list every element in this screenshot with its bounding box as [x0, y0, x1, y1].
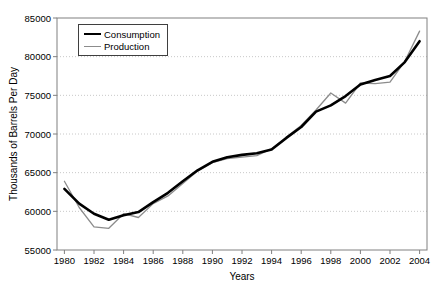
legend-item-production: Production	[84, 40, 160, 52]
y-tick-label: 80000	[25, 51, 51, 62]
legend-label-consumption: Consumption	[104, 29, 160, 40]
y-tick-label: 75000	[25, 90, 51, 101]
consumption-line-swatch-icon	[84, 33, 101, 35]
x-tick-label: 1982	[83, 255, 104, 266]
x-tick-label: 2004	[409, 255, 430, 266]
y-tick-label: 70000	[25, 129, 51, 140]
y-tick-label: 55000	[25, 245, 51, 256]
x-tick-label: 1994	[261, 255, 282, 266]
x-tick-label: 1998	[320, 255, 341, 266]
production-line-swatch-icon	[84, 46, 101, 47]
x-axis-title: Years	[229, 271, 254, 282]
y-tick-label: 60000	[25, 206, 51, 217]
x-tick-label: 2000	[350, 255, 371, 266]
consumption-line	[64, 41, 419, 220]
x-tick-label: 1986	[143, 255, 164, 266]
y-tick-label: 65000	[25, 167, 51, 178]
legend-label-production: Production	[104, 41, 149, 52]
x-tick-label: 1996	[291, 255, 312, 266]
x-tick-label: 1980	[54, 255, 75, 266]
y-tick-label: 85000	[25, 13, 51, 24]
x-tick-label: 1988	[172, 255, 193, 266]
legend: Consumption Production	[78, 24, 168, 56]
line-chart-canvas: 5500060000650007000075000800008500019801…	[0, 0, 439, 296]
x-tick-label: 1992	[231, 255, 252, 266]
x-tick-label: 1990	[202, 255, 223, 266]
x-tick-label: 1984	[113, 255, 134, 266]
production-line	[64, 31, 419, 228]
legend-item-consumption: Consumption	[84, 28, 160, 40]
x-tick-label: 2002	[379, 255, 400, 266]
y-axis-title: Thousands of Barrels Per Day	[8, 67, 19, 201]
oil-consumption-production-chart: 5500060000650007000075000800008500019801…	[0, 0, 439, 296]
